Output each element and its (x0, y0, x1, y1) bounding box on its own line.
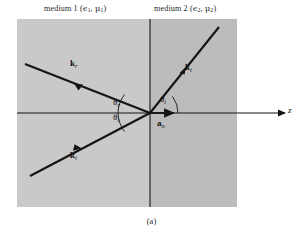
ray-diagram-overlay (0, 0, 303, 237)
k-incident-subscript: i (75, 154, 77, 161)
k-reflected-subscript: r (75, 62, 78, 69)
theta-reflection-label: θr (113, 97, 120, 108)
incident-ray-line (30, 113, 150, 176)
reflected-ray-line (25, 64, 150, 113)
z-axis-label: z (288, 105, 292, 115)
theta-incidence-label: θi (113, 112, 119, 123)
theta-reflection-subscript: r (117, 101, 119, 108)
theta-incidence-subscript: i (117, 116, 119, 123)
theta-transmission-label: θt (160, 94, 166, 105)
figure-caption: (a) (0, 216, 303, 226)
theta-transmission-subscript: t (164, 98, 166, 105)
figure-canvas: medium 1 (ϵ1, μ1) medium 2 (ϵ2, μ2) (0, 0, 303, 237)
a-normal-label: an (157, 118, 165, 129)
a-normal-subscript: n (162, 122, 165, 129)
k-reflected-label: kr (70, 58, 78, 69)
k-incident-label: ki (70, 150, 77, 161)
k-transmitted-subscript: t (190, 66, 192, 73)
k-transmitted-label: kt (185, 62, 192, 73)
theta-t-arc (173, 97, 179, 114)
